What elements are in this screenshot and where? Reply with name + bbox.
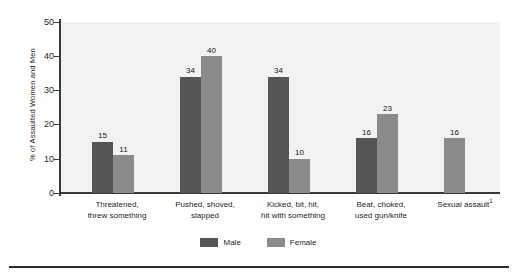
- bar-chart-figure: % of Assaulted Women and Men 50 40 30 20…: [0, 0, 517, 275]
- footer-rule: [9, 266, 509, 268]
- legend-swatch-male-icon: [200, 238, 218, 247]
- bar-female-pushed[interactable]: [201, 56, 222, 193]
- y-tick-mark-20: [54, 124, 59, 125]
- legend-label-male: Male: [223, 238, 240, 247]
- y-tick-label-10: 10: [24, 155, 54, 164]
- y-tick-mark-10: [54, 159, 59, 160]
- legend-item-female[interactable]: Female: [267, 238, 317, 247]
- legend-label-female: Female: [290, 238, 317, 247]
- category-text: Sexual assault: [437, 200, 489, 209]
- chart-legend: Male Female: [0, 238, 517, 247]
- bar-female-beat[interactable]: [377, 114, 398, 193]
- y-axis-title: % of Assaulted Women and Men: [28, 10, 37, 200]
- category-line-1: Sexual assault1: [411, 200, 517, 211]
- value-label-male-threatened: 15: [88, 132, 117, 140]
- bar-male-kicked[interactable]: [268, 77, 289, 193]
- y-tick-mark-50: [54, 22, 59, 23]
- y-tick-label-30: 30: [24, 86, 54, 95]
- y-tick-label-20: 20: [24, 120, 54, 129]
- category-footnote-marker: 1: [489, 198, 492, 204]
- bars-layer: 15 11 34 40 34 10 16 23 16: [60, 22, 500, 193]
- category-line-2: used gun/knife: [327, 211, 435, 222]
- y-tick-mark-30: [54, 90, 59, 91]
- y-tick-mark-0: [54, 193, 59, 194]
- bar-male-pushed[interactable]: [180, 77, 201, 193]
- value-label-male-pushed: 34: [176, 67, 205, 75]
- y-tick-label-50: 50: [24, 18, 54, 27]
- bar-female-sexual-assault[interactable]: [444, 138, 465, 193]
- legend-swatch-female-icon: [267, 238, 285, 247]
- value-label-female-sexual-assault: 16: [440, 129, 469, 137]
- value-label-female-threatened: 11: [109, 146, 138, 154]
- value-label-female-kicked: 10: [285, 149, 314, 157]
- legend-item-male[interactable]: Male: [200, 238, 240, 247]
- bar-female-threatened[interactable]: [113, 155, 134, 193]
- y-tick-mark-40: [54, 56, 59, 57]
- bar-male-beat[interactable]: [356, 138, 377, 193]
- value-label-male-kicked: 34: [264, 67, 293, 75]
- y-tick-label-0: 0: [24, 189, 54, 198]
- value-label-female-beat: 23: [373, 105, 402, 113]
- bar-female-kicked[interactable]: [289, 159, 310, 193]
- category-label-sexual-assault: Sexual assault1: [411, 200, 517, 211]
- value-label-female-pushed: 40: [197, 47, 226, 55]
- value-label-male-beat: 16: [352, 129, 381, 137]
- y-tick-label-40: 40: [24, 52, 54, 61]
